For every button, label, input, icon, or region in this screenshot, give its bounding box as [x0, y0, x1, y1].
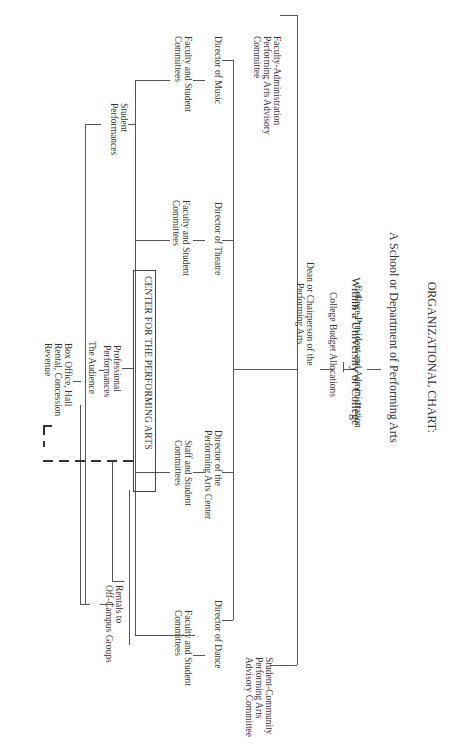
node-music-committees: Faculty and Student Committees [172, 36, 192, 112]
node-budget: College Budget Allocations [327, 292, 337, 397]
connector-line [367, 369, 381, 370]
connector-line [222, 240, 233, 241]
connector-line [297, 15, 298, 665]
node-professional-performances: Professional Performances [101, 345, 121, 397]
connector-line [233, 60, 234, 620]
connector-line [80, 604, 90, 605]
connector-line [222, 60, 233, 61]
revenue-flow-dashed-line [43, 425, 45, 447]
connector-line [85, 124, 101, 125]
node-director-music: Director of Music [212, 36, 222, 104]
connector-line [222, 620, 233, 621]
node-center: CENTER FOR THE PERFORMING ARTS [142, 276, 152, 450]
node-director-theatre: Director of Theatre [212, 202, 222, 275]
node-faculty-admin-committee: Faculty-Administration Performing Arts A… [251, 36, 281, 135]
revenue-flow-line [44, 425, 52, 427]
connector-line [344, 369, 356, 370]
connector-line [193, 655, 205, 656]
connector-line [193, 240, 205, 241]
connector-line [129, 490, 130, 645]
connector-line [112, 461, 113, 581]
node-revenue: Box Office, Hall Rental, Concession Reve… [42, 343, 72, 416]
node-theatre-committees: Faculty and Student Committees [170, 200, 190, 276]
node-audience: The Audience [86, 341, 96, 394]
chart-title-line1: ORGANIZATIONAL CHART: [425, 272, 438, 443]
node-student-performances: Student Performances [108, 103, 128, 155]
connector-line [80, 405, 81, 605]
connector-line [280, 15, 297, 16]
connector-line [135, 240, 170, 241]
connector-line [122, 368, 133, 369]
connector-line [193, 80, 205, 81]
connector-line [135, 80, 170, 81]
connector-line [193, 472, 205, 473]
connector-line [99, 370, 104, 371]
revenue-flow-dashed-line [43, 460, 133, 462]
node-president: College President and Administration [352, 285, 362, 428]
connector-line [128, 124, 135, 125]
connector-line [233, 369, 297, 370]
node-director-dance: Director of Dance [212, 600, 222, 669]
chart-title-line2: A School or Department of Performing Art… [387, 232, 400, 443]
connector-line [73, 381, 81, 382]
chart-title: ORGANIZATIONAL CHART: A School or Depart… [324, 272, 463, 443]
connector-line [343, 362, 344, 372]
org-chart-canvas: ORGANIZATIONAL CHART: A School or Depart… [0, 0, 470, 750]
connector-line [270, 665, 297, 666]
connector-line [320, 369, 332, 370]
connector-line [222, 472, 233, 473]
connector-line [112, 581, 124, 582]
node-director-pac: Director of the Performing Arts Center [202, 430, 222, 519]
node-rentals: Rentals to Off-Campus Groups [103, 585, 123, 663]
connector-line [135, 635, 195, 636]
node-dance-committees: Faculty and Student Committees [172, 610, 192, 686]
node-pac-committees: Staff and Student Committees [172, 440, 192, 506]
node-student-community-committee: Student-Community Performing Arts Adviso… [243, 657, 273, 737]
